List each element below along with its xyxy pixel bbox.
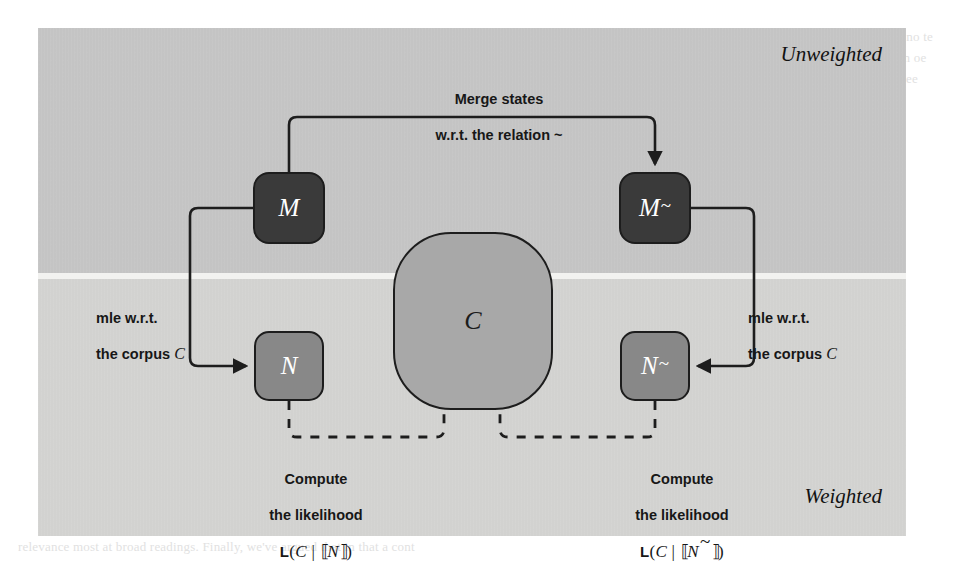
node-c[interactable]: C (393, 232, 553, 410)
mle-left-line1: mle w.r.t. (96, 309, 246, 327)
lf-model: N (327, 542, 339, 561)
likelihood-left-line1: Compute (226, 470, 406, 488)
rf-lbracket: ⟦ (681, 542, 687, 561)
node-m-label: M (279, 194, 300, 222)
rf-model: N (687, 542, 699, 561)
rf-bar: | (667, 542, 680, 561)
mle-left-line2-prefix: the corpus (96, 346, 174, 362)
node-n-tilde-label: N (641, 352, 658, 380)
likelihood-right-formula: L(C | ⟦N~⟧) (640, 543, 724, 561)
rf-fn: L (640, 543, 649, 560)
likelihood-left-line2: the likelihood (226, 506, 406, 524)
rf-corpus: C (655, 542, 667, 561)
merge-label-line2: w.r.t. the relation ~ (390, 126, 608, 144)
likelihood-right-line2: the likelihood (592, 506, 772, 524)
bleed-bottom-line: relevance most at broad readings. Finall… (18, 536, 938, 557)
region-label-weighted: Weighted (805, 484, 882, 509)
likelihood-right-edge (500, 401, 655, 437)
mle-right-edge (691, 208, 754, 366)
merge-label-line1: Merge states (390, 90, 608, 108)
merge-label: Merge states w.r.t. the relation ~ (390, 72, 608, 162)
mle-left-label: mle w.r.t. the corpus C (96, 291, 246, 381)
likelihood-right-label: Compute the likelihood L(C | ⟦N~⟧) (592, 452, 772, 561)
lf-lbracket: ⟦ (321, 542, 327, 561)
mle-right-line2: the corpus C (748, 345, 908, 363)
region-label-unweighted: Unweighted (781, 42, 882, 67)
figure-panel: M M~ N N~ C Merge states w.r.t. the rela… (38, 28, 906, 536)
lf-rbracket: ⟧ (340, 542, 346, 561)
likelihood-left-edge (289, 401, 444, 437)
mle-left-line2: the corpus C (96, 345, 246, 363)
tilde-glyph: ~ (700, 531, 711, 552)
lf-close: ) (346, 542, 352, 561)
node-m-tilde[interactable]: M~ (619, 172, 691, 244)
node-n-tilde[interactable]: N~ (620, 331, 690, 401)
mle-left-corpus-var: C (174, 345, 185, 362)
node-m-tilde-label: M (639, 194, 660, 222)
mle-right-line2-prefix: the corpus (748, 346, 826, 362)
node-c-label: C (464, 306, 481, 336)
likelihood-right-line1: Compute (592, 470, 772, 488)
mle-right-corpus-var: C (826, 345, 837, 362)
node-n[interactable]: N (254, 331, 324, 401)
lf-corpus: C (295, 542, 307, 561)
node-m[interactable]: M (253, 172, 325, 244)
mle-right-line1: mle w.r.t. (748, 309, 908, 327)
lf-fn: L (280, 543, 289, 560)
likelihood-left-formula: L(C | ⟦N⟧) (280, 543, 353, 561)
lf-bar: | (307, 542, 320, 561)
node-n-label: N (281, 352, 298, 380)
rf-rbracket: ⟧ (712, 542, 718, 561)
rf-close: ) (718, 542, 724, 561)
mle-right-label: mle w.r.t. the corpus C (748, 291, 908, 381)
likelihood-left-label: Compute the likelihood L(C | ⟦N⟧) (226, 452, 406, 561)
